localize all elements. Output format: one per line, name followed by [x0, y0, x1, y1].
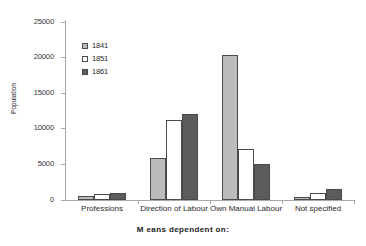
y-tick-label-25000: 25000	[14, 18, 54, 26]
bar-1841-direction-of-labour	[150, 158, 166, 200]
legend-item-1851: 1851	[82, 55, 108, 63]
bar-group-own-manual-labour	[210, 22, 282, 200]
bar-chart: Population 25000 20000 15000 10000 5000 …	[0, 0, 366, 246]
bar-group-direction-of-labour	[138, 22, 210, 200]
chart-legend: 1841 1851 1861	[82, 42, 108, 76]
x-category-label-own-manual-labour: Own Manual Labour	[210, 204, 282, 214]
legend-swatch-1861-icon	[82, 69, 88, 75]
bar-1861-professions	[110, 193, 126, 200]
bar-1851-not-specified	[310, 193, 326, 200]
x-category-label-not-specified: Not specified	[282, 204, 354, 214]
bar-1861-own-manual-labour	[254, 164, 270, 200]
x-category-label-professions: Professions	[66, 204, 138, 214]
plot-area	[66, 22, 354, 200]
y-tick-label-0: 0	[14, 196, 54, 204]
bar-1861-not-specified	[326, 189, 342, 200]
x-category-label-direction-of-labour: Direction of Labour	[138, 204, 210, 214]
legend-item-1861: 1861	[82, 68, 108, 76]
legend-label-1851: 1851	[92, 55, 108, 63]
legend-item-1841: 1841	[82, 42, 108, 50]
bar-1851-own-manual-labour	[238, 149, 254, 200]
y-tick-label-20000: 20000	[14, 53, 54, 61]
x-tick-4	[354, 200, 355, 204]
bar-1851-professions	[94, 194, 110, 200]
legend-label-1841: 1841	[92, 42, 108, 50]
y-axis-tick-labels: 25000 20000 15000 10000 5000 0	[14, 0, 54, 200]
bar-1841-own-manual-labour	[222, 55, 238, 200]
x-axis-title: M eans dependent on:	[0, 225, 366, 234]
bar-group-not-specified	[282, 22, 354, 200]
bar-1851-direction-of-labour	[166, 120, 182, 201]
y-tick-label-15000: 15000	[14, 89, 54, 97]
legend-swatch-1851-icon	[82, 56, 88, 62]
bar-1841-not-specified	[294, 197, 310, 200]
bar-1861-direction-of-labour	[182, 114, 198, 200]
legend-label-1861: 1861	[92, 68, 108, 76]
legend-swatch-1841-icon	[82, 43, 88, 49]
bar-1841-professions	[78, 196, 94, 200]
y-tick-label-5000: 5000	[14, 160, 54, 168]
y-tick-label-10000: 10000	[14, 124, 54, 132]
